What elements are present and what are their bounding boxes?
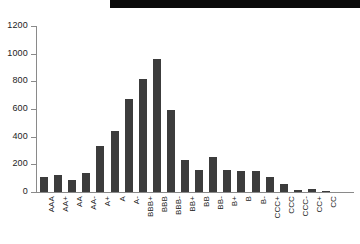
bar (111, 131, 119, 192)
x-tick-label: BBB (160, 196, 169, 212)
bar (223, 170, 231, 192)
y-tick-label: 800 (0, 76, 28, 85)
y-tick-label: 0 (0, 187, 28, 196)
bar (167, 110, 175, 192)
y-tick-label: 200 (0, 159, 28, 168)
bar (209, 157, 217, 192)
bar (322, 191, 330, 192)
x-tick-label: A- (132, 196, 141, 204)
y-tick-label: 400 (0, 132, 28, 141)
x-tick-label: AA+ (61, 196, 70, 212)
plot-area (36, 26, 354, 192)
bar (125, 99, 133, 192)
bar (280, 184, 288, 192)
x-tick-label: BBB+ (146, 196, 155, 217)
y-tick-label: 600 (0, 104, 28, 113)
x-tick-label: BB- (216, 196, 225, 210)
x-tick-label: CCC+ (273, 196, 282, 218)
x-tick-label: B (244, 196, 253, 201)
x-tick-label: CCC (287, 196, 296, 214)
x-tick-label: AAA (47, 196, 56, 212)
bar (68, 180, 76, 192)
x-tick-label: BB (202, 196, 211, 207)
bar (82, 173, 90, 192)
y-tick-label: 1200 (0, 21, 28, 30)
y-tick-mark (31, 192, 36, 193)
x-tick-label: AA- (89, 196, 98, 210)
x-tick-label: B+ (230, 196, 239, 206)
x-tick-label: B- (259, 196, 268, 204)
bar (181, 160, 189, 193)
bar (153, 59, 161, 192)
bar (40, 177, 48, 192)
bar (266, 177, 274, 192)
x-tick-label: BB+ (188, 196, 197, 212)
bar (294, 190, 302, 192)
x-axis-line (36, 192, 354, 193)
bar (308, 189, 316, 192)
chart-figure: 020040060080010001200 AAAAA+AAAA-A+AA-BB… (0, 0, 360, 244)
x-tick-label: BBB- (174, 196, 183, 215)
x-tick-label: A+ (103, 196, 112, 206)
y-tick-label: 1000 (0, 49, 28, 58)
bar (195, 170, 203, 192)
bar (139, 79, 147, 192)
x-tick-label: CC+ (315, 196, 324, 213)
x-tick-label: CC (329, 196, 338, 208)
bar (237, 171, 245, 192)
bar (96, 146, 104, 192)
bar (54, 175, 62, 192)
x-tick-label: A (118, 196, 127, 201)
x-tick-label: AA (75, 196, 84, 207)
x-tick-label: CCC- (301, 196, 310, 216)
scan-artifact-band (110, 0, 360, 8)
bar (252, 171, 260, 192)
